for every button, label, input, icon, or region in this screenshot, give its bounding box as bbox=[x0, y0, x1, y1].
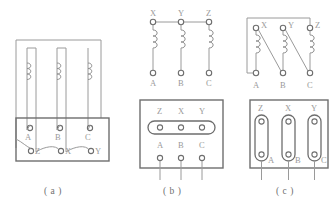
label-c-box-C: C bbox=[321, 155, 327, 165]
label-c-Y: Y bbox=[288, 20, 294, 30]
terminal-b-Y[interactable] bbox=[199, 125, 204, 130]
panel-c-group bbox=[247, 18, 328, 180]
winding-b-1 bbox=[153, 30, 157, 48]
three-phase-winding-figure: A B C Z X Y X Y Z A B C Z X Y A B C X Y … bbox=[0, 0, 334, 210]
label-c-box-Y: Y bbox=[311, 103, 317, 113]
label-b-box-A: A bbox=[157, 140, 163, 150]
label-c-box-A: A bbox=[268, 155, 274, 165]
label-c-C: C bbox=[307, 80, 313, 90]
terminal-c-C[interactable] bbox=[312, 152, 317, 157]
winding-c-2 bbox=[283, 35, 287, 53]
caption-c: ( c ) bbox=[276, 186, 294, 196]
terminal-b-B[interactable] bbox=[178, 155, 183, 160]
panel-a-group bbox=[16, 40, 109, 161]
label-b-X: X bbox=[150, 8, 156, 18]
node-b-C[interactable] bbox=[206, 70, 211, 75]
label-c-X: X bbox=[261, 20, 267, 30]
caption-b: ( b ) bbox=[163, 186, 181, 196]
terminal-b-C[interactable] bbox=[199, 155, 204, 160]
terminal-a-Z[interactable] bbox=[28, 148, 33, 153]
delta-link-x-b bbox=[259, 30, 282, 71]
node-c-A[interactable] bbox=[253, 70, 258, 75]
terminal-a-Y[interactable] bbox=[88, 148, 93, 153]
label-a-A: A bbox=[25, 132, 31, 142]
label-b-C: C bbox=[206, 78, 212, 88]
node-b-X[interactable] bbox=[150, 19, 155, 24]
label-b-box-Z: Z bbox=[157, 106, 162, 116]
terminal-c-Z[interactable] bbox=[259, 119, 264, 124]
node-c-Y[interactable] bbox=[280, 25, 285, 30]
label-b-box-C: C bbox=[199, 140, 205, 150]
terminal-c-B[interactable] bbox=[286, 152, 291, 157]
winding-c-3 bbox=[310, 35, 314, 53]
label-b-A: A bbox=[150, 78, 156, 88]
node-c-B[interactable] bbox=[280, 70, 285, 75]
label-a-Y: Y bbox=[95, 146, 101, 156]
terminal-c-X[interactable] bbox=[286, 119, 291, 124]
label-a-Z: Z bbox=[35, 146, 40, 156]
node-c-X[interactable] bbox=[253, 25, 258, 30]
label-c-A: A bbox=[253, 80, 259, 90]
label-b-Y: Y bbox=[178, 8, 184, 18]
label-c-box-Z: Z bbox=[258, 103, 263, 113]
panel-b-group bbox=[140, 19, 223, 180]
label-b-B: B bbox=[178, 78, 184, 88]
node-b-B[interactable] bbox=[178, 70, 183, 75]
label-c-box-B: B bbox=[295, 155, 301, 165]
terminal-b-Z[interactable] bbox=[157, 125, 162, 130]
terminal-c-Y[interactable] bbox=[312, 119, 317, 124]
diagram-canvas bbox=[0, 0, 334, 210]
terminal-b-X[interactable] bbox=[178, 125, 183, 130]
label-b-box-X: X bbox=[178, 106, 184, 116]
winding-b-3 bbox=[209, 30, 213, 48]
delta-link-y-c bbox=[286, 30, 309, 71]
label-c-Z: Z bbox=[315, 20, 320, 30]
terminal-c-A[interactable] bbox=[259, 152, 264, 157]
label-b-box-B: B bbox=[178, 140, 184, 150]
label-a-B: B bbox=[55, 132, 61, 142]
caption-a: ( a ) bbox=[44, 186, 62, 196]
label-a-X: X bbox=[65, 146, 71, 156]
label-b-Z: Z bbox=[206, 8, 211, 18]
node-c-C[interactable] bbox=[307, 70, 312, 75]
winding-b-2 bbox=[181, 30, 185, 48]
node-b-Z[interactable] bbox=[206, 19, 211, 24]
node-c-Z[interactable] bbox=[307, 25, 312, 30]
label-c-box-X: X bbox=[285, 103, 291, 113]
terminal-a-X[interactable] bbox=[58, 148, 63, 153]
node-b-A[interactable] bbox=[150, 70, 155, 75]
node-b-Y[interactable] bbox=[178, 19, 183, 24]
label-c-B: B bbox=[280, 80, 286, 90]
label-b-box-Y: Y bbox=[199, 106, 205, 116]
winding-c-1 bbox=[256, 35, 260, 53]
label-a-C: C bbox=[85, 132, 91, 142]
terminal-b-A[interactable] bbox=[157, 155, 162, 160]
